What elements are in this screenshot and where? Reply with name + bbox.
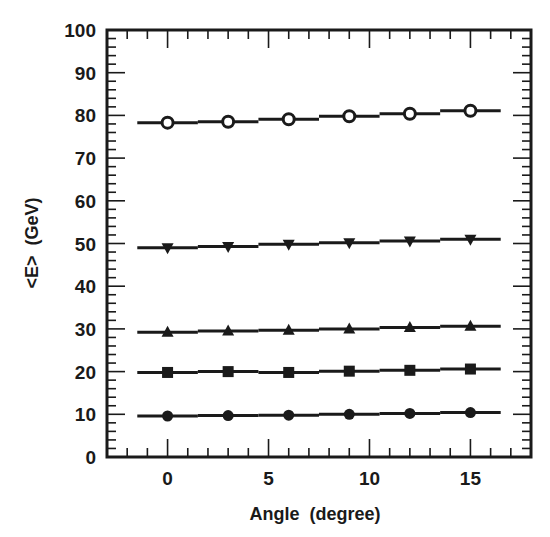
y-axis-title: <E> (GeV) xyxy=(22,197,42,288)
open-circle-marker xyxy=(465,105,476,116)
y-tick-label: 30 xyxy=(75,319,96,340)
y-tick-label: 20 xyxy=(75,362,96,383)
series-open-circle xyxy=(137,105,500,128)
x-tick-labels: 051015 xyxy=(162,468,481,489)
y-tick-label: 90 xyxy=(75,63,96,84)
filled-square-marker xyxy=(404,365,415,376)
series-square xyxy=(137,364,500,378)
series-filled-circle xyxy=(137,407,500,421)
y-tick-label: 40 xyxy=(75,276,96,297)
x-tick-label: 5 xyxy=(263,468,274,489)
chart: 0102030405060708090100 051015 Angle (deg… xyxy=(0,0,550,537)
series-up-triangle xyxy=(137,320,500,337)
open-circle-marker xyxy=(223,116,234,127)
y-tick-label: 100 xyxy=(64,20,96,41)
filled-circle-marker xyxy=(465,407,476,418)
y-tick-label: 0 xyxy=(85,447,96,468)
open-circle-marker xyxy=(283,114,294,125)
y-tick-labels: 0102030405060708090100 xyxy=(64,20,96,468)
filled-circle-marker xyxy=(344,409,355,420)
filled-square-marker xyxy=(162,367,173,378)
series-down-triangle xyxy=(137,235,500,255)
x-axis-title: Angle (degree) xyxy=(249,504,380,524)
y-tick-label: 60 xyxy=(75,191,96,212)
filled-square-marker xyxy=(465,364,476,375)
filled-circle-marker xyxy=(283,410,294,421)
open-circle-marker xyxy=(344,111,355,122)
filled-square-marker xyxy=(283,367,294,378)
x-tick-label: 10 xyxy=(359,468,380,489)
filled-circle-marker xyxy=(223,410,234,421)
x-tick-label: 0 xyxy=(162,468,173,489)
filled-circle-marker xyxy=(162,411,173,422)
filled-square-marker xyxy=(344,366,355,377)
x-tick-label: 15 xyxy=(460,468,482,489)
y-tick-label: 80 xyxy=(75,105,96,126)
y-tick-label: 50 xyxy=(75,234,96,255)
y-tick-label: 10 xyxy=(75,404,96,425)
open-circle-marker xyxy=(162,117,173,128)
filled-circle-marker xyxy=(404,408,415,419)
data-points xyxy=(137,105,500,421)
y-tick-label: 70 xyxy=(75,148,96,169)
open-circle-marker xyxy=(404,108,415,119)
filled-square-marker xyxy=(223,366,234,377)
